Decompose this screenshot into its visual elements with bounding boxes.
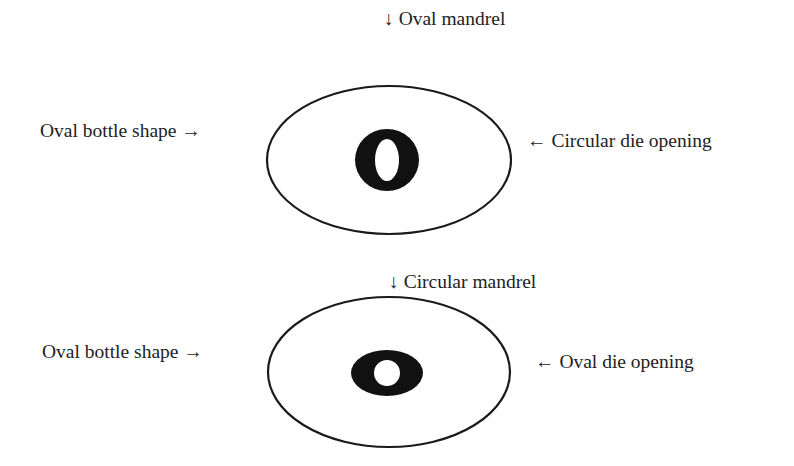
bottom-circular-mandrel-hole (374, 360, 400, 386)
top-figure (267, 86, 511, 234)
label-top-oval-bottle-shape: Oval bottle shape → (40, 121, 201, 141)
bottom-figure (268, 297, 510, 447)
label-oval-mandrel: ↓ Oval mandrel (384, 9, 505, 29)
diagram-canvas (0, 0, 794, 466)
label-circular-die-opening: ← Circular die opening (527, 131, 712, 151)
label-circular-mandrel: ↓ Circular mandrel (389, 272, 536, 292)
label-oval-die-opening: ← Oval die opening (535, 352, 694, 372)
top-oval-mandrel-hole (375, 139, 399, 181)
label-bottom-oval-bottle-shape: Oval bottle shape → (42, 342, 203, 362)
